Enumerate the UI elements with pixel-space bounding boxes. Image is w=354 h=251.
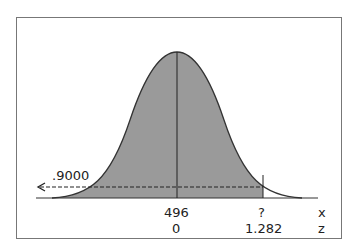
mean-z-label: 0 [172,222,180,235]
unknown-z-label: 1.282 [245,222,282,235]
x-axis-label: x [318,206,326,219]
unknown-x-label: ? [258,206,265,219]
area-label: .9000 [52,169,89,182]
mean-x-label: 496 [164,206,189,219]
z-axis-label: z [318,222,325,235]
